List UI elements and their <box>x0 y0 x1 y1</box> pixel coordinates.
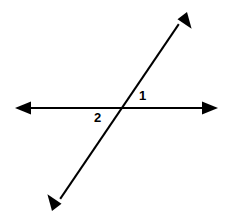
arrowhead-right-icon <box>202 102 218 115</box>
horizontal-line <box>15 102 218 115</box>
arrowhead-lower-left-icon <box>47 194 61 211</box>
diagonal-line-segment <box>60 24 179 199</box>
arrowhead-left-icon <box>15 102 31 115</box>
geometry-diagram: 1 2 <box>0 0 228 222</box>
arrowhead-upper-right-icon <box>178 12 192 29</box>
diagonal-line <box>47 12 191 211</box>
diagram-svg <box>0 0 228 222</box>
angle-label-2: 2 <box>94 111 101 124</box>
angle-label-1: 1 <box>139 89 146 102</box>
